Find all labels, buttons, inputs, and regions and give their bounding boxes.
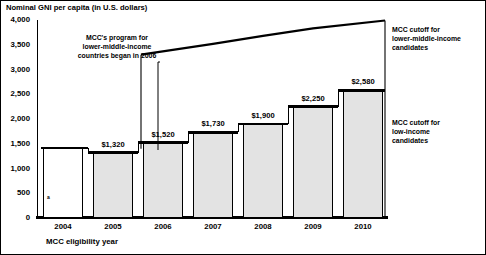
annotation-line: countries began in 2006 <box>58 51 176 60</box>
y-axis-tick-label: 2,500 <box>2 89 30 98</box>
x-axis-tick-label-2004: 2004 <box>40 222 86 231</box>
y-axis-tick-label: 1,000 <box>2 164 30 173</box>
annotation-line: candidates <box>392 43 484 52</box>
annotation-line: candidates <box>392 136 484 145</box>
y-axis-tick-label: 0 <box>2 213 30 222</box>
y-axis-tick-label: 500 <box>2 188 30 197</box>
annotation-line: low-income <box>392 127 484 136</box>
y-axis-tick-label: 1,500 <box>2 139 30 148</box>
annotation-line: MCC cutoff for <box>392 118 484 127</box>
x-axis-tick-label-2006: 2006 <box>140 222 186 231</box>
y-axis-tick-label: 2,000 <box>2 114 30 123</box>
y-axis-tick-label: 4,000 <box>2 15 30 24</box>
x-axis-tick-label-2008: 2008 <box>240 222 286 231</box>
annotation-lic-cutoff: MCC cutoff forlow-incomecandidates <box>392 118 484 145</box>
y-axis-tick-label: 3,000 <box>2 65 30 74</box>
x-axis-title: MCC eligibility year <box>46 237 118 246</box>
x-axis-tick-label-2010: 2010 <box>340 222 386 231</box>
annotation-line: lower-middle-income <box>392 34 484 43</box>
x-axis-tick-label-2007: 2007 <box>190 222 236 231</box>
annotation-line: MCC's program for <box>58 33 176 42</box>
annotation-line: MCC cutoff for <box>392 25 484 34</box>
x-axis-tick-label-2005: 2005 <box>90 222 136 231</box>
annotation-line: lower-middle-income <box>58 42 176 51</box>
annotation-lmic-cutoff: MCC cutoff forlower-middle-incomecandida… <box>392 25 484 52</box>
annotation-program-start: MCC's program forlower-middle-incomecoun… <box>58 33 176 60</box>
y-axis-tick-label: 3,500 <box>2 40 30 49</box>
chart-title: Nominal GNI per capita (in U.S. dollars) <box>6 4 147 13</box>
x-axis-tick-label-2009: 2009 <box>290 222 336 231</box>
